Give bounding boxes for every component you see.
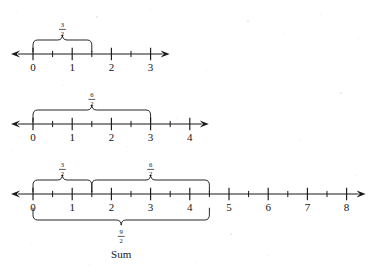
tick-label: 1 xyxy=(69,131,75,143)
line-1: 012332 xyxy=(11,21,170,73)
brace-three-halves-3-label: 32 xyxy=(59,161,66,176)
tick-label: 3 xyxy=(148,201,154,213)
tick-label: 1 xyxy=(69,61,75,73)
tick-label: 4 xyxy=(187,201,193,213)
brace-six-halves-2-label: 62 xyxy=(88,91,95,106)
brace-curve xyxy=(33,215,209,225)
fraction-numerator: 9 xyxy=(120,228,124,235)
fraction-denominator: 2 xyxy=(90,100,93,107)
line-2: 0123462 xyxy=(11,91,209,143)
brace-three-halves-1-label: 32 xyxy=(59,21,66,36)
sum-caption: Sum xyxy=(111,248,132,260)
tick-label: 5 xyxy=(226,201,232,213)
brace-six-halves-3-label: 62 xyxy=(147,161,154,176)
tick-label: 0 xyxy=(30,61,36,73)
fraction-denominator: 2 xyxy=(149,170,152,177)
tick-label: 3 xyxy=(148,131,154,143)
fraction-denominator: 2 xyxy=(61,30,64,37)
fraction-denominator: 2 xyxy=(61,170,64,177)
fraction-numerator: 3 xyxy=(61,21,65,28)
brace-three-halves-3: 32 xyxy=(33,161,92,192)
tick-label: 7 xyxy=(305,201,311,213)
fraction-denominator: 2 xyxy=(120,237,123,244)
tick-label: 1 xyxy=(69,201,75,213)
brace-six-halves-3: 62 xyxy=(92,161,210,192)
line-3: 012345678326292Sum xyxy=(11,161,366,260)
brace-sum-nine-halves: 92Sum xyxy=(33,208,209,260)
number-line-svg: 0123320123462012345678326292Sum xyxy=(0,0,371,272)
tick-label: 2 xyxy=(109,201,115,213)
tick-label: 0 xyxy=(30,131,36,143)
fraction-numerator: 3 xyxy=(61,161,65,168)
tick-label: 4 xyxy=(187,131,193,143)
tick-label: 2 xyxy=(109,61,115,73)
tick-label: 3 xyxy=(148,61,154,73)
tick-label: 2 xyxy=(109,131,115,143)
tick-label: 6 xyxy=(265,201,271,213)
brace-three-halves-1: 32 xyxy=(33,21,92,52)
brace-sum-nine-halves-label: 92 xyxy=(118,228,125,243)
number-line-figure: 0123320123462012345678326292Sum xyxy=(0,0,371,272)
tick-label: 8 xyxy=(344,201,350,213)
fraction-numerator: 6 xyxy=(149,161,153,168)
brace-six-halves-2: 62 xyxy=(33,91,151,122)
fraction-numerator: 6 xyxy=(90,91,94,98)
